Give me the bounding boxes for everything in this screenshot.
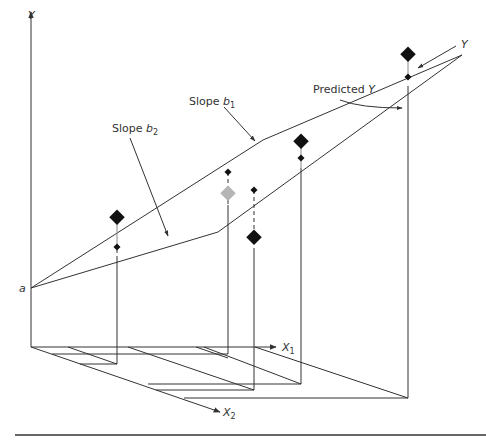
x2-axis-label: X2: [223, 407, 236, 421]
regression-plane-diagram: [0, 0, 486, 448]
predicted-y-pointer: [340, 100, 402, 108]
plane-edge-slope-b2: [31, 55, 462, 288]
ground-grid-line: [68, 347, 117, 364]
plane-edge-slope-b1: [31, 55, 462, 288]
slope-b1-pointer: [224, 107, 255, 141]
observed-point-5: [400, 47, 416, 63]
predicted-point-2: [224, 168, 231, 175]
observed-point-2: [220, 186, 236, 202]
y-axis-label: Y: [28, 10, 35, 21]
observed-y-pointer: [418, 46, 456, 68]
predicted-point-3: [250, 186, 257, 193]
slope-b2-label: Slope b2: [112, 123, 158, 137]
ground-grid-line: [196, 347, 228, 358]
observed-y-label: Y: [461, 39, 468, 50]
x2-axis: [31, 347, 220, 412]
observed-point-1: [109, 210, 125, 226]
predicted-y-label: Predicted Y: [313, 84, 375, 95]
slope-b1-label: Slope b1: [189, 96, 235, 110]
observed-point-4: [293, 134, 309, 150]
predicted-point-4: [297, 154, 304, 161]
intercept-label: a: [19, 283, 26, 294]
predicted-point-1: [113, 243, 120, 250]
ground-grid-line: [255, 347, 408, 398]
x1-axis-label: X1: [282, 342, 295, 356]
observed-point-3: [246, 230, 262, 246]
